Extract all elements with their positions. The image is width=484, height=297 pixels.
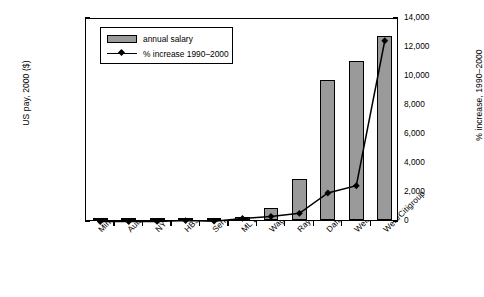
line-marker xyxy=(381,37,388,44)
y-axis-right-tick-label: 14,000 xyxy=(404,13,474,21)
y-axis-right-tick-label: 4,000 xyxy=(404,158,474,166)
legend-label-annual-salary: annual salary xyxy=(143,34,193,44)
line-path xyxy=(100,41,385,222)
line-marker xyxy=(268,213,275,220)
y-axis-right-tick-label: 0 xyxy=(404,216,474,224)
line-marker xyxy=(353,182,360,189)
y-axis-left-title: US pay, 2000 ($) xyxy=(21,33,31,153)
y-axis-right-tick-label: 10,000 xyxy=(404,71,474,79)
legend-label-percent-increase: % increase 1990–2000 xyxy=(143,49,229,59)
legend-line-swatch-icon xyxy=(107,49,137,58)
legend-bar-swatch-icon xyxy=(107,35,137,43)
chart-legend: annual salary % increase 1990–2000 xyxy=(100,27,233,64)
line-marker xyxy=(239,215,246,222)
y-axis-right-tick-label: 6,000 xyxy=(404,129,474,137)
legend-item-annual-salary: annual salary xyxy=(107,32,193,45)
legend-item-percent-increase: % increase 1990–2000 xyxy=(107,47,229,60)
y-axis-right-title: % increase, 1990–2000 xyxy=(474,25,484,165)
y-axis-right-tick-label: 12,000 xyxy=(404,42,474,50)
y-axis-right-tick-label: 8,000 xyxy=(404,100,474,108)
